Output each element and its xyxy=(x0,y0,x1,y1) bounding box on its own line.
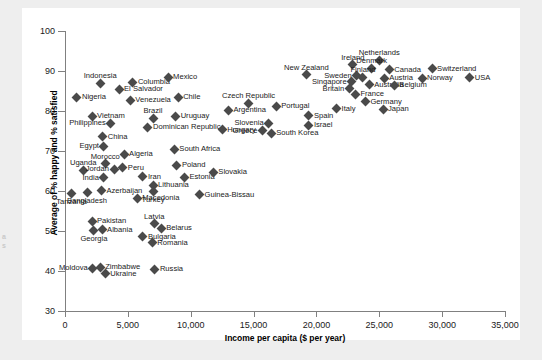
data-point-label: Britain xyxy=(323,85,345,93)
data-point-marker xyxy=(171,111,181,121)
data-point-marker xyxy=(150,264,160,274)
data-point-label: El Salvador xyxy=(124,85,163,93)
data-point-label: Tanzania xyxy=(56,198,86,206)
data-point-marker xyxy=(427,64,437,74)
data-point-marker xyxy=(99,141,109,151)
data-point-label: Russia xyxy=(160,265,183,273)
data-point-label: Japan xyxy=(388,105,409,113)
data-point-label: Romania xyxy=(157,239,187,247)
data-point-label: Venezuela xyxy=(135,96,170,104)
data-point-marker xyxy=(114,84,124,94)
x-tick-mark xyxy=(254,311,255,317)
data-point-label: Chile xyxy=(183,93,200,101)
data-point-marker xyxy=(173,92,183,102)
x-tick-mark xyxy=(65,311,66,317)
data-point-label: Finland xyxy=(350,66,375,74)
data-point-label: South Africa xyxy=(179,145,220,153)
data-point-label: China xyxy=(108,133,128,141)
y-tick-label: 30 xyxy=(22,306,55,316)
y-tick-mark xyxy=(58,71,66,72)
y-tick-mark xyxy=(58,191,66,192)
x-tick-mark xyxy=(316,311,317,317)
data-point-label: Jordan xyxy=(86,165,109,173)
data-point-marker xyxy=(169,144,179,154)
data-point-marker xyxy=(138,232,148,242)
data-point-label: Czech Republic xyxy=(222,92,275,100)
data-point-marker xyxy=(364,80,374,90)
data-point-marker xyxy=(143,122,153,132)
data-point-label: Philippines xyxy=(69,119,106,127)
data-point-label: Poland xyxy=(182,161,206,169)
data-point-label: Brazil xyxy=(144,107,163,115)
data-point-marker xyxy=(271,101,281,111)
x-tick-mark xyxy=(379,311,380,317)
edge-caption-text: a s xyxy=(2,232,18,250)
data-point-label: Argentina xyxy=(233,106,266,114)
data-point-marker xyxy=(172,160,182,170)
data-point-label: Slovakia xyxy=(218,168,247,176)
data-point-marker xyxy=(304,111,314,121)
y-tick-mark xyxy=(58,151,66,152)
data-point-label: Greece xyxy=(232,127,257,135)
x-tick-mark xyxy=(191,311,192,317)
chart-panel: 30405060708090100 05,00010,00015,00020,0… xyxy=(22,8,520,340)
data-point-marker xyxy=(109,164,119,174)
data-point-label: Albania xyxy=(107,226,132,234)
data-point-marker xyxy=(264,118,274,128)
data-point-marker xyxy=(361,97,371,107)
screenshot-root: a s 30405060708090100 05,00010,00015,000… xyxy=(0,0,542,360)
y-tick-mark xyxy=(58,231,66,232)
data-point-label: Nigeria xyxy=(82,93,106,101)
y-tick-label: 100 xyxy=(22,26,55,36)
data-point-label: South Korea xyxy=(276,129,318,137)
x-tick-label: 35,000 xyxy=(475,320,535,330)
data-point-label: Peru xyxy=(128,164,144,172)
data-point-marker xyxy=(465,73,475,83)
x-tick-mark xyxy=(505,311,506,317)
data-point-label: Macedonia xyxy=(142,194,179,202)
data-point-label: Guinea-Bissau xyxy=(205,191,255,199)
data-point-label: Latvia xyxy=(144,213,164,221)
y-tick-mark xyxy=(58,31,66,32)
data-point-label: Norway xyxy=(427,74,453,82)
x-tick-label: 30,000 xyxy=(412,320,472,330)
data-point-label: USA xyxy=(475,74,491,82)
data-point-marker xyxy=(378,104,388,114)
data-point-label: Dominican Republic xyxy=(153,123,221,131)
data-point-marker xyxy=(138,172,148,182)
data-point-marker xyxy=(119,149,129,159)
data-point-label: India xyxy=(83,174,99,182)
data-point-marker xyxy=(266,128,276,138)
data-point-marker xyxy=(72,92,82,102)
x-tick-label: 5,000 xyxy=(98,320,158,330)
data-point-label: Belgium xyxy=(399,81,426,89)
x-tick-mark xyxy=(442,311,443,317)
data-point-marker xyxy=(98,132,108,142)
x-tick-label: 25,000 xyxy=(349,320,409,330)
data-point-label: New Zealand xyxy=(284,64,329,72)
x-axis-line xyxy=(65,311,505,312)
data-point-label: Portugal xyxy=(281,102,309,110)
data-point-label: Moldova xyxy=(59,264,88,272)
data-point-label: Georgia xyxy=(80,235,107,243)
x-tick-label: 10,000 xyxy=(161,320,221,330)
x-tick-label: 20,000 xyxy=(286,320,346,330)
data-point-label: Egypt xyxy=(80,142,99,150)
data-point-label: Italy xyxy=(342,105,356,113)
data-point-marker xyxy=(195,190,205,200)
data-point-marker xyxy=(97,186,107,196)
x-tick-label: 15,000 xyxy=(224,320,284,330)
data-point-label: Algeria xyxy=(129,150,153,158)
data-point-label: Switzerland xyxy=(437,65,476,73)
data-point-label: Uruguay xyxy=(181,112,210,120)
data-point-label: Ukraine xyxy=(110,270,136,278)
data-point-label: Denmark xyxy=(356,57,387,65)
data-point-marker xyxy=(99,173,109,183)
x-tick-label: 0 xyxy=(35,320,95,330)
y-tick-mark xyxy=(58,111,66,112)
data-point-marker xyxy=(125,95,135,105)
scatter-plot: 30405060708090100 05,00010,00015,00020,0… xyxy=(22,8,520,340)
data-point-marker xyxy=(118,163,128,173)
data-point-marker xyxy=(87,216,97,226)
data-point-marker xyxy=(223,105,233,115)
